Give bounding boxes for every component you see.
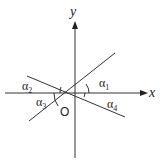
y-axis-label: y: [68, 4, 77, 19]
angle-arc-alpha4: [84, 93, 85, 97]
y-axis: [72, 21, 78, 158]
angle-arc-alpha1: [86, 84, 89, 93]
angle-label-alpha3: α3: [36, 95, 46, 111]
x-axis-arrow-icon: [140, 90, 148, 96]
y-axis-arrow-icon: [72, 21, 78, 29]
angle-label-alpha4: α4: [107, 97, 117, 113]
angle-label-alpha2: α2: [22, 79, 32, 95]
coordinate-diagram: y x O α1 α2 α3 α4: [0, 0, 163, 166]
origin-label: O: [60, 105, 69, 119]
x-axis-label: x: [148, 85, 156, 100]
angle-label-alpha1: α1: [99, 76, 109, 92]
